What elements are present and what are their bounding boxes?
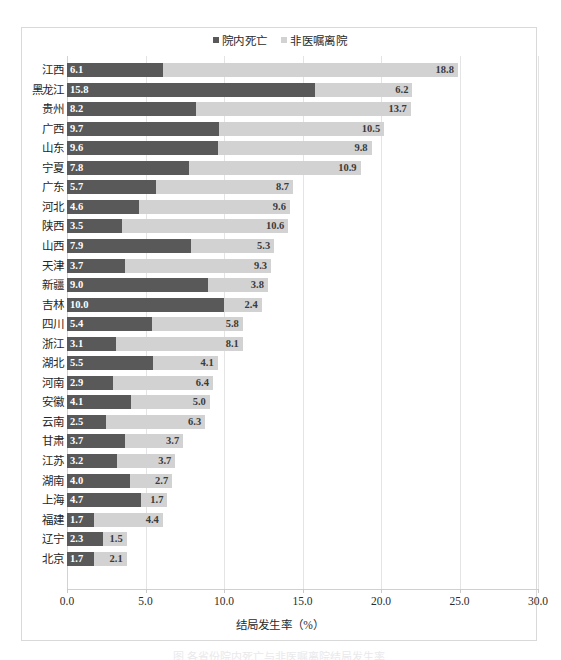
bar-value-label: 2.3 — [70, 532, 83, 546]
category-label-上海: 上海 — [20, 493, 64, 507]
bar-segment-非医嘱离院-安徽[interactable]: 5.0 — [131, 395, 210, 409]
bar-row: 黑龙江15.86.2 — [67, 83, 538, 97]
bar-segment-院内死亡-广东[interactable]: 5.7 — [67, 180, 156, 194]
category-label-贵州: 贵州 — [20, 102, 64, 116]
bar-value-label: 2.7 — [155, 474, 168, 488]
bar-segment-院内死亡-浙江[interactable]: 3.1 — [67, 337, 116, 351]
bar-segment-非医嘱离院-新疆[interactable]: 3.8 — [208, 278, 268, 292]
bar-segment-院内死亡-辽宁[interactable]: 2.3 — [67, 532, 103, 546]
bar-segment-非医嘱离院-湖北[interactable]: 4.1 — [153, 356, 217, 370]
bar-segment-非医嘱离院-吉林[interactable]: 2.4 — [224, 298, 262, 312]
bar-value-label: 9.6 — [273, 200, 286, 214]
bar-value-label: 6.3 — [188, 415, 201, 429]
bar-segment-院内死亡-河北[interactable]: 4.6 — [67, 200, 139, 214]
bar-segment-院内死亡-黑龙江[interactable]: 15.8 — [67, 83, 315, 97]
bar-segment-非医嘱离院-山西[interactable]: 5.3 — [191, 239, 274, 253]
bar-value-label: 9.0 — [70, 278, 83, 292]
bar-segment-院内死亡-山西[interactable]: 7.9 — [67, 239, 191, 253]
category-label-宁夏: 宁夏 — [20, 161, 64, 175]
bar-row: 上海4.71.7 — [67, 493, 538, 507]
category-label-新疆: 新疆 — [20, 278, 64, 292]
figure-caption: 图 各省份院内死亡与非医嘱离院结局发生率 — [21, 648, 537, 660]
bar-segment-院内死亡-安徽[interactable]: 4.1 — [67, 395, 131, 409]
bar-value-label: 5.7 — [70, 180, 83, 194]
bar-segment-院内死亡-江西[interactable]: 6.1 — [67, 63, 163, 77]
bar-segment-院内死亡-上海[interactable]: 4.7 — [67, 493, 141, 507]
category-label-云南: 云南 — [20, 415, 64, 429]
bar-row: 山东9.69.8 — [67, 141, 538, 155]
bar-value-label: 3.7 — [70, 259, 83, 273]
gridline-30.0 — [538, 56, 539, 589]
bar-segment-非医嘱离院-上海[interactable]: 1.7 — [141, 493, 168, 507]
category-label-甘肃: 甘肃 — [20, 434, 64, 448]
bar-value-label: 18.8 — [436, 63, 454, 77]
bar-segment-院内死亡-陕西[interactable]: 3.5 — [67, 219, 122, 233]
bar-segment-院内死亡-吉林[interactable]: 10.0 — [67, 298, 224, 312]
x-tick — [381, 589, 382, 593]
category-label-福建: 福建 — [20, 513, 64, 527]
bar-segment-院内死亡-四川[interactable]: 5.4 — [67, 317, 152, 331]
bar-row: 天津3.79.3 — [67, 259, 538, 273]
bar-segment-非医嘱离院-北京[interactable]: 2.1 — [94, 552, 127, 566]
category-label-浙江: 浙江 — [20, 337, 64, 351]
bar-segment-院内死亡-云南[interactable]: 2.5 — [67, 415, 106, 429]
category-label-辽宁: 辽宁 — [20, 532, 64, 546]
bar-segment-非医嘱离院-宁夏[interactable]: 10.9 — [189, 161, 360, 175]
bar-segment-非医嘱离院-天津[interactable]: 9.3 — [125, 259, 271, 273]
bar-value-label: 5.0 — [193, 395, 206, 409]
bar-segment-非医嘱离院-广东[interactable]: 8.7 — [156, 180, 293, 194]
bar-segment-非医嘱离院-湖南[interactable]: 2.7 — [130, 474, 172, 488]
bar-segment-院内死亡-甘肃[interactable]: 3.7 — [67, 434, 125, 448]
bar-segment-非医嘱离院-浙江[interactable]: 8.1 — [116, 337, 243, 351]
category-label-湖北: 湖北 — [20, 356, 64, 370]
bar-value-label: 3.2 — [70, 454, 83, 468]
bar-row: 宁夏7.810.9 — [67, 161, 538, 175]
x-tick-label-10.0: 10.0 — [214, 595, 234, 607]
bar-segment-院内死亡-宁夏[interactable]: 7.8 — [67, 161, 189, 175]
x-tick-label-20.0: 20.0 — [371, 595, 391, 607]
bar-segment-院内死亡-河南[interactable]: 2.9 — [67, 376, 113, 390]
bar-row: 吉林10.02.4 — [67, 298, 538, 312]
bar-segment-非医嘱离院-云南[interactable]: 6.3 — [106, 415, 205, 429]
legend-entry-1[interactable]: 院内死亡 — [213, 32, 267, 48]
x-tick-label-15.0: 15.0 — [292, 595, 312, 607]
bar-value-label: 10.0 — [70, 298, 88, 312]
bar-value-label: 8.2 — [70, 102, 83, 116]
chart-legend: 院内死亡非医嘱离院 — [22, 32, 538, 48]
bar-segment-非医嘱离院-河北[interactable]: 9.6 — [139, 200, 290, 214]
legend-label: 院内死亡 — [222, 32, 267, 48]
bar-row: 湖南4.02.7 — [67, 474, 538, 488]
bar-value-label: 4.1 — [70, 395, 83, 409]
bar-segment-院内死亡-贵州[interactable]: 8.2 — [67, 102, 196, 116]
bar-segment-院内死亡-湖南[interactable]: 4.0 — [67, 474, 130, 488]
bar-segment-非医嘱离院-江西[interactable]: 18.8 — [163, 63, 458, 77]
bar-segment-非医嘱离院-陕西[interactable]: 10.6 — [122, 219, 288, 233]
bar-segment-非医嘱离院-四川[interactable]: 5.8 — [152, 317, 243, 331]
bar-segment-非医嘱离院-贵州[interactable]: 13.7 — [196, 102, 411, 116]
bar-segment-院内死亡-山东[interactable]: 9.6 — [67, 141, 218, 155]
bar-segment-非医嘱离院-黑龙江[interactable]: 6.2 — [315, 83, 412, 97]
bar-segment-院内死亡-新疆[interactable]: 9.0 — [67, 278, 208, 292]
bar-segment-院内死亡-福建[interactable]: 1.7 — [67, 513, 94, 527]
bar-segment-非医嘱离院-广西[interactable]: 10.5 — [219, 122, 384, 136]
bar-value-label: 4.0 — [70, 474, 83, 488]
bar-value-label: 10.6 — [266, 219, 284, 233]
bar-row: 福建1.74.4 — [67, 513, 538, 527]
bar-segment-院内死亡-湖北[interactable]: 5.5 — [67, 356, 153, 370]
bar-segment-院内死亡-江苏[interactable]: 3.2 — [67, 454, 117, 468]
bar-segment-院内死亡-北京[interactable]: 1.7 — [67, 552, 94, 566]
square-marker-icon — [213, 37, 219, 43]
category-label-江苏: 江苏 — [20, 454, 64, 468]
bar-segment-非医嘱离院-福建[interactable]: 4.4 — [94, 513, 163, 527]
bar-segment-非医嘱离院-甘肃[interactable]: 3.7 — [125, 434, 183, 448]
bar-segment-院内死亡-天津[interactable]: 3.7 — [67, 259, 125, 273]
bar-value-label: 5.4 — [70, 317, 83, 331]
legend-entry-2[interactable]: 非医嘱离院 — [281, 32, 347, 48]
bar-segment-非医嘱离院-辽宁[interactable]: 1.5 — [103, 532, 127, 546]
bar-value-label: 9.3 — [254, 259, 267, 273]
bar-value-label: 3.5 — [70, 219, 83, 233]
bar-segment-非医嘱离院-江苏[interactable]: 3.7 — [117, 454, 175, 468]
bar-segment-非医嘱离院-山东[interactable]: 9.8 — [218, 141, 372, 155]
bar-segment-院内死亡-广西[interactable]: 9.7 — [67, 122, 219, 136]
bar-segment-非医嘱离院-河南[interactable]: 6.4 — [113, 376, 213, 390]
